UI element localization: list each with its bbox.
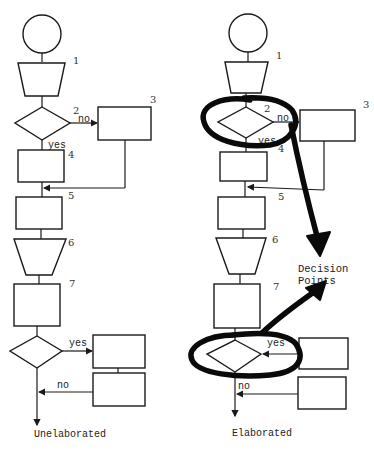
step-3-process xyxy=(300,110,355,141)
highlight-arrow-shaft xyxy=(262,292,314,333)
label-no-final: no xyxy=(57,380,69,391)
step-number-1: 1 xyxy=(73,55,79,66)
unelaborated-flowchart: 1 2 no 3 yes 4 5 6 7 yes no Unelaborated xyxy=(10,15,156,440)
annotation-line-1: Decision xyxy=(298,263,348,275)
annotation-line-2: Points xyxy=(298,275,336,287)
step-number-4: 4 xyxy=(68,149,74,160)
step-4-process xyxy=(18,150,64,182)
caption-elaborated: Elaborated xyxy=(232,428,292,439)
step-3-process xyxy=(98,107,151,140)
step-number-5: 5 xyxy=(278,191,284,202)
step-4-process xyxy=(220,152,267,181)
step-number-3: 3 xyxy=(363,99,369,110)
process-yes-branch xyxy=(93,335,145,368)
highlight-arrow-shaft xyxy=(291,125,318,240)
label-yes-final: yes xyxy=(267,338,285,349)
step-7-process xyxy=(14,284,60,326)
step-6-manual-operation xyxy=(14,239,66,275)
decision-final xyxy=(207,340,261,372)
step-number-6: 6 xyxy=(68,237,74,248)
caption-unelaborated: Unelaborated xyxy=(34,429,106,440)
step-5-process xyxy=(218,197,265,229)
start-terminal xyxy=(23,15,61,53)
step-number-7: 7 xyxy=(69,278,75,289)
step-number-2: 2 xyxy=(264,103,270,114)
step-number-3: 3 xyxy=(150,94,156,105)
label-no: no xyxy=(277,113,289,124)
process-no-branch xyxy=(298,377,346,409)
step-5-process xyxy=(16,197,62,229)
label-yes-final: yes xyxy=(69,338,87,349)
step-1-manual-operation xyxy=(225,62,268,93)
step-7-process xyxy=(214,284,260,328)
highlight-arrowhead xyxy=(307,232,330,256)
step-number-5: 5 xyxy=(68,190,74,201)
connector-merge xyxy=(248,187,324,190)
step-2-decision xyxy=(15,107,70,140)
process-yes-branch xyxy=(299,338,348,369)
step-number-6: 6 xyxy=(272,234,278,245)
step-6-manual-operation xyxy=(216,238,266,274)
step-number-1: 1 xyxy=(276,50,282,61)
step-1-manual-operation xyxy=(18,63,65,96)
flowchart-comparison: 1 2 no 3 yes 4 5 6 7 yes no Unelaborated xyxy=(0,0,374,450)
step-number-7: 7 xyxy=(273,281,279,292)
process-no-branch xyxy=(93,373,145,406)
start-terminal xyxy=(229,14,267,52)
decision-final xyxy=(10,336,62,368)
label-no: no xyxy=(78,114,90,125)
elaborated-flowchart: 1 2 no 3 yes 4 5 6 7 yes no Elaborated xyxy=(191,14,369,439)
label-no-final: no xyxy=(238,381,250,392)
